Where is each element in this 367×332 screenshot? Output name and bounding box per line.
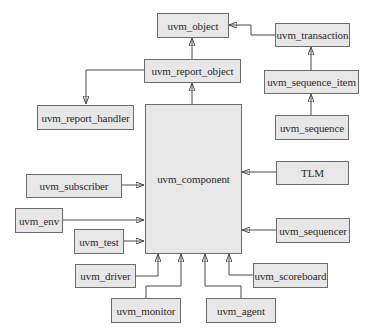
node-uvm-component: uvm_component — [145, 104, 242, 254]
node-uvm-agent: uvm_agent — [206, 298, 276, 323]
node-uvm-env: uvm_env — [15, 208, 63, 233]
node-label: uvm_sequence_item — [267, 76, 356, 88]
node-uvm-object: uvm_object — [157, 13, 229, 38]
node-uvm-report-handler: uvm_report_handler — [37, 105, 134, 130]
uvm-class-hierarchy-diagram: uvm_object uvm_transaction uvm_report_ob… — [0, 0, 367, 332]
node-label: uvm_test — [79, 236, 119, 248]
node-uvm-sequence: uvm_sequence — [275, 115, 349, 140]
node-uvm-monitor: uvm_monitor — [111, 298, 181, 323]
node-uvm-sequence-item: uvm_sequence_item — [264, 70, 359, 94]
node-uvm-driver: uvm_driver — [75, 264, 136, 288]
node-uvm-subscriber: uvm_subscriber — [26, 174, 122, 198]
edge-transaction-to-object — [229, 25, 275, 35]
node-uvm-scoreboard: uvm_scoreboard — [253, 263, 328, 288]
node-label: uvm_object — [168, 20, 219, 32]
node-uvm-test: uvm_test — [74, 229, 124, 254]
node-label: uvm_driver — [80, 270, 130, 282]
node-uvm-sequencer: uvm_sequencer — [276, 218, 350, 243]
node-label: uvm_transaction — [277, 29, 349, 41]
node-label: uvm_report_object — [152, 65, 234, 77]
node-label: uvm_monitor — [117, 305, 176, 317]
node-label: uvm_component — [157, 173, 230, 185]
node-label: uvm_sequencer — [279, 225, 347, 237]
edge-driver-to-component — [135, 254, 158, 276]
node-label: uvm_env — [19, 215, 59, 227]
edge-agent-to-component — [205, 254, 241, 298]
node-uvm-transaction: uvm_transaction — [275, 23, 350, 47]
node-label: uvm_agent — [217, 305, 265, 317]
node-tlm: TLM — [276, 161, 349, 185]
node-label: TLM — [301, 167, 324, 179]
edge-report-object-to-report-handler — [86, 70, 144, 104]
node-label: uvm_sequence — [280, 122, 344, 134]
edge-scoreboard-to-component — [229, 254, 253, 275]
node-uvm-report-object: uvm_report_object — [144, 59, 241, 83]
node-label: uvm_scoreboard — [255, 270, 327, 282]
node-label: uvm_report_handler — [41, 112, 129, 124]
node-label: uvm_subscriber — [40, 180, 109, 192]
